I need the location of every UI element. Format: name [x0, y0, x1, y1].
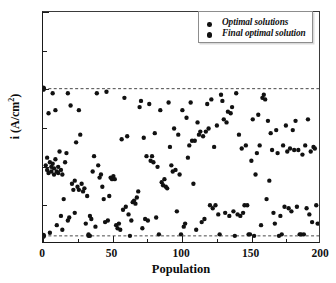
- data-point: [117, 221, 121, 225]
- data-point: [84, 221, 88, 225]
- data-point: [85, 194, 89, 198]
- data-point: [140, 226, 144, 230]
- data-point: [252, 234, 256, 238]
- y-axis-title-text: i (A/cm: [8, 102, 22, 140]
- data-point: [245, 203, 249, 207]
- y-tick-minor: [43, 205, 47, 206]
- data-point: [313, 146, 317, 150]
- data-point: [144, 154, 148, 158]
- data-point: [237, 132, 241, 136]
- data-point: [255, 151, 259, 155]
- data-point: [240, 146, 244, 150]
- data-point: [147, 102, 151, 106]
- data-point: [162, 177, 166, 181]
- x-tick-label: 100: [161, 248, 201, 260]
- data-point: [90, 169, 94, 173]
- data-point: [153, 131, 157, 135]
- data-point: [93, 224, 97, 228]
- data-point: [73, 178, 77, 182]
- x-tick-label: 50: [92, 248, 132, 260]
- data-point: [124, 205, 128, 209]
- y-tick-major: [43, 89, 49, 90]
- legend: Optimal solutions Final optimal solution: [198, 11, 313, 43]
- data-point: [77, 188, 81, 192]
- data-point: [306, 117, 310, 121]
- y-tick-major: [43, 167, 49, 168]
- data-point: [104, 90, 108, 94]
- data-point: [259, 223, 263, 227]
- data-point: [99, 172, 103, 176]
- data-point: [215, 123, 219, 127]
- data-point: [89, 217, 93, 221]
- data-point: [274, 128, 278, 132]
- data-point: [68, 103, 72, 107]
- data-point: [270, 148, 274, 152]
- data-point: [228, 111, 232, 115]
- series-final-optimal-solution: [43, 86, 46, 239]
- data-point: [309, 149, 313, 153]
- data-point: [263, 97, 267, 101]
- data-point: [53, 108, 57, 112]
- data-point: [180, 108, 184, 112]
- data-point: [262, 93, 266, 97]
- data-point: [184, 116, 188, 120]
- data-point: [266, 119, 270, 123]
- data-point: [291, 128, 295, 132]
- data-point: [281, 143, 285, 147]
- y-axis-title: i (A/cm2): [8, 57, 21, 177]
- data-point: [176, 132, 180, 136]
- data-point: [292, 148, 296, 152]
- legend-item-final-optimal-solution: Final optimal solution: [204, 27, 306, 38]
- data-point: [79, 182, 83, 186]
- data-point: [284, 123, 288, 127]
- data-point: [67, 215, 71, 219]
- x-tick-minor: [147, 239, 148, 243]
- data-point: [102, 197, 106, 201]
- data-point: [118, 228, 122, 232]
- data-point: [186, 155, 190, 159]
- data-point: [107, 194, 111, 198]
- data-point: [206, 126, 210, 130]
- data-point: [223, 211, 227, 215]
- data-point: [150, 154, 154, 158]
- data-point: [77, 108, 81, 112]
- legend-item-optimal-solutions: Optimal solutions: [204, 16, 306, 27]
- data-point: [74, 140, 78, 144]
- data-point: [165, 186, 169, 190]
- data-point: [310, 220, 314, 224]
- data-point: [183, 221, 187, 225]
- y-tick-minor: [43, 128, 47, 129]
- data-point: [88, 234, 92, 238]
- legend-marker-circle-icon: [204, 24, 215, 42]
- x-tick-minor: [217, 239, 218, 243]
- data-point: [195, 120, 199, 124]
- data-point: [125, 134, 129, 138]
- data-point: [50, 91, 54, 95]
- data-point: [62, 197, 66, 201]
- data-points-layer: [43, 12, 319, 242]
- data-point: [73, 211, 77, 215]
- data-point: [172, 126, 176, 130]
- data-point: [216, 212, 220, 216]
- data-point: [63, 160, 67, 164]
- data-point: [157, 232, 161, 236]
- data-point: [166, 100, 170, 104]
- data-point: [293, 119, 297, 123]
- data-point: [137, 105, 141, 109]
- data-point: [154, 215, 158, 219]
- data-point: [50, 162, 54, 166]
- data-point: [209, 97, 213, 101]
- data-point: [296, 148, 300, 152]
- data-point: [129, 218, 133, 222]
- data-point: [302, 232, 306, 236]
- data-point: [106, 218, 110, 222]
- data-point: [241, 211, 245, 215]
- data-point: [257, 143, 261, 147]
- data-point: [66, 91, 70, 95]
- data-point: [142, 136, 146, 140]
- data-point: [119, 137, 123, 141]
- data-point: [139, 99, 143, 103]
- y-axis-title-superscript: 2: [7, 98, 16, 102]
- x-tick-major: [182, 236, 183, 242]
- data-point: [289, 209, 293, 213]
